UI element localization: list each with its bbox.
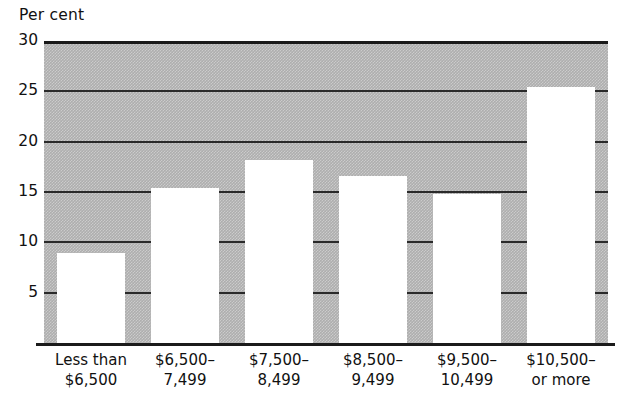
x-tick-label-line1: Less than (44, 350, 138, 370)
gridline-25 (44, 90, 608, 92)
x-axis-tick-labels: Less than$6,500$6,500–7,499$7,500–8,499$… (44, 350, 608, 394)
bar (527, 87, 595, 343)
x-tick-label: $7,500–8,499 (232, 350, 326, 390)
bar-chart: Per cent 51015202530 Less than$6,500$6,5… (0, 0, 619, 394)
y-tick-label-30: 30 (4, 33, 38, 49)
y-tick-label-15: 15 (4, 184, 38, 200)
x-tick-label-line2: 9,499 (326, 370, 420, 390)
bar (245, 160, 313, 343)
gridline-30 (44, 41, 608, 44)
bar (57, 253, 125, 343)
x-tick-label-line2: 7,499 (138, 370, 232, 390)
x-tick-label: $8,500–9,499 (326, 350, 420, 390)
x-tick-label-line1: $9,500– (420, 350, 514, 370)
x-tick-label-line1: $7,500– (232, 350, 326, 370)
x-axis-line (36, 343, 615, 346)
x-tick-label: $9,500–10,499 (420, 350, 514, 390)
y-tick-label-10: 10 (4, 234, 38, 250)
bar (151, 188, 219, 343)
x-tick-label-line2: 10,499 (420, 370, 514, 390)
gridline-5 (44, 292, 608, 294)
y-tick-label-20: 20 (4, 134, 38, 150)
y-tick-label-5: 5 (4, 285, 38, 301)
x-tick-label-line2: $6,500 (44, 370, 138, 390)
gridline-20 (44, 141, 608, 143)
bar (433, 194, 501, 343)
x-tick-label-line1: $8,500– (326, 350, 420, 370)
x-tick-label: $10,500–or more (514, 350, 608, 390)
x-tick-label-line1: $10,500– (514, 350, 608, 370)
x-tick-label: $6,500–7,499 (138, 350, 232, 390)
plot-area (44, 41, 608, 343)
bar (339, 176, 407, 343)
y-axis-tick-labels: 51015202530 (0, 0, 38, 394)
y-tick-label-25: 25 (4, 83, 38, 99)
x-tick-label: Less than$6,500 (44, 350, 138, 390)
x-tick-label-line2: 8,499 (232, 370, 326, 390)
gridline-15 (44, 191, 608, 193)
gridline-10 (44, 241, 608, 243)
x-tick-label-line1: $6,500– (138, 350, 232, 370)
x-tick-label-line2: or more (514, 370, 608, 390)
